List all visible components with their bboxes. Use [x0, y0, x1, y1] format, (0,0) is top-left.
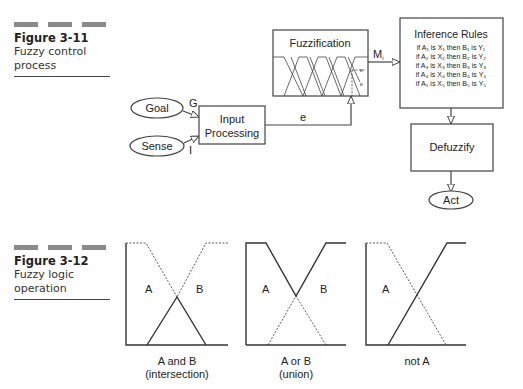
input-processing-node: Input Processing: [199, 106, 265, 144]
error-edge-label: e: [300, 111, 306, 123]
goal-arrow: [183, 111, 199, 117]
sense-arrow: [184, 136, 199, 143]
sense-edge-label: I: [189, 144, 192, 156]
fuzzy-logic-operations: A B A and B (intersection) A B A or B (u…: [126, 243, 466, 380]
sense-node: Sense: [130, 136, 184, 156]
set-a-label: A: [145, 283, 153, 295]
panel-caption-line1: not A: [404, 355, 430, 367]
inference-rules-title: Inference Rules: [414, 28, 488, 40]
rule-4: if A₄ is X₄ then B₄ is Y₄: [416, 71, 487, 78]
goal-label: Goal: [145, 102, 168, 114]
rule-3: if A₃ is X₃ then B₃ is Y₃: [416, 62, 487, 69]
membership-edge-label: Mi: [373, 48, 384, 61]
fuzzification-node: Fuzzification B B: [273, 30, 368, 96]
set-a-label: A: [382, 283, 390, 295]
svg-text:B: B: [360, 82, 363, 87]
fuzzification-label: Fuzzification: [289, 37, 350, 49]
defuzzify-node: Defuzzify: [411, 124, 493, 171]
panel-caption-line2: (intersection): [145, 368, 209, 380]
set-b-label: B: [196, 283, 203, 295]
error-arrow: [265, 96, 351, 125]
defuzzify-label: Defuzzify: [429, 141, 475, 153]
fuzzy-control-process-diagram: Goal G Sense I Input Processing e Fuzzif…: [130, 18, 503, 209]
panel-caption-line1: A or B: [281, 355, 311, 367]
input-processing-label-line2: Processing: [205, 127, 259, 139]
goal-node: Goal: [131, 98, 183, 118]
intersection-panel: A B A and B (intersection): [126, 243, 228, 380]
act-label: Act: [443, 194, 459, 206]
inference-rules-node: Inference Rules if A₁ is X₁ then B₁ is Y…: [400, 18, 503, 108]
rule-2: if A₂ is X₂ then B₂ is Y₂: [416, 53, 486, 60]
rule-5: if A₅ is X₅ then B₅ is Y₅: [416, 80, 486, 87]
sense-label: Sense: [141, 140, 172, 152]
input-processing-label-line1: Input: [220, 113, 244, 125]
panel-caption-line2: (union): [279, 368, 313, 380]
goal-edge-label: G: [189, 97, 198, 109]
diagram-canvas: Goal G Sense I Input Processing e Fuzzif…: [0, 0, 523, 389]
act-node: Act: [429, 191, 473, 209]
set-b-label: B: [320, 283, 327, 295]
set-a-label: A: [262, 283, 270, 295]
union-panel: A B A or B (union): [246, 243, 346, 380]
complement-panel: A not A: [366, 243, 466, 367]
svg-text:B: B: [360, 68, 363, 73]
rule-1: if A₁ is X₁ then B₁ is Y₁: [417, 44, 486, 51]
panel-caption-line1: A and B: [158, 355, 197, 367]
